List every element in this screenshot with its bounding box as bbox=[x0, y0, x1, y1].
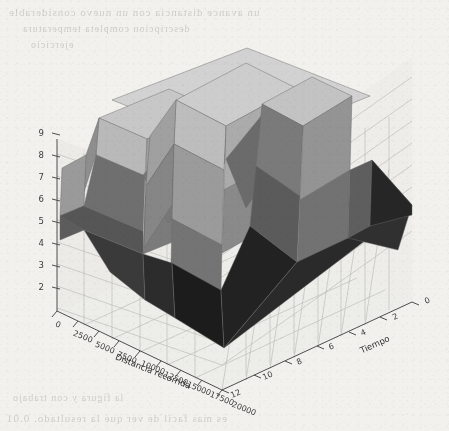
z-tick-label: 4 bbox=[39, 238, 44, 248]
y-tick-label: 2 bbox=[391, 312, 399, 322]
z-tick-label: 9 bbox=[39, 128, 44, 138]
z-tick-label: 2 bbox=[39, 282, 44, 292]
x-tick-label: 2500 bbox=[72, 329, 94, 345]
x-tick-label: 20000 bbox=[230, 400, 257, 418]
y-tick-label: 4 bbox=[359, 328, 367, 338]
x-tick-label: 0 bbox=[54, 320, 62, 330]
z-tick-label: 7 bbox=[39, 172, 44, 182]
z-tick-label: 3 bbox=[39, 260, 44, 270]
surface-facet-ridge3-rightskirt bbox=[348, 160, 372, 238]
z-axis-ticklabels: 9 8 7 6 5 4 3 2 bbox=[39, 128, 44, 292]
z-tick-label: 8 bbox=[39, 150, 44, 160]
z-tick-label: 6 bbox=[39, 194, 44, 204]
surface-plot-figure: 9 8 7 6 5 4 3 2 0 2500 5000 7500 10000 1… bbox=[0, 0, 449, 431]
y-tick-label: 6 bbox=[327, 342, 335, 352]
z-tick-label: 5 bbox=[39, 216, 44, 226]
y-tick-label: 8 bbox=[295, 357, 303, 367]
x-tick-label: 5000 bbox=[94, 340, 116, 356]
y-tick-label: 0 bbox=[423, 296, 431, 306]
